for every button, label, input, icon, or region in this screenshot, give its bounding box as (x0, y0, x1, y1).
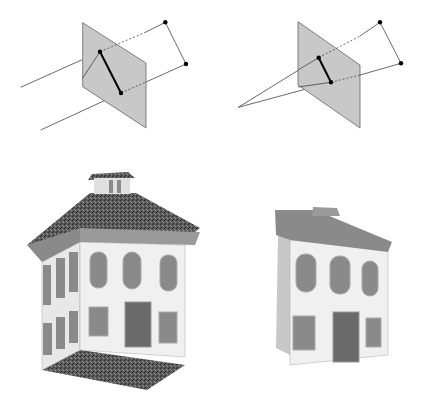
cupola-window (109, 180, 113, 193)
window (159, 312, 177, 343)
side-window (56, 317, 65, 349)
window (90, 252, 107, 288)
parallel-projection-diagram (21, 20, 189, 130)
object-point (378, 20, 382, 24)
ray-line (360, 63, 401, 75)
door (333, 312, 359, 362)
ray-line (146, 22, 165, 32)
perspective-projection-diagram (238, 20, 403, 128)
side-window (56, 258, 65, 298)
object-point (399, 61, 403, 65)
projected-point (98, 50, 102, 54)
house-orthographic (27, 172, 200, 390)
cupola (312, 207, 340, 216)
object-point (163, 20, 167, 24)
window (160, 255, 177, 291)
side-window (43, 323, 52, 355)
projected-point (329, 80, 333, 84)
figure-canvas (0, 0, 422, 398)
cupola-window (117, 180, 121, 193)
window (362, 261, 378, 296)
window (89, 307, 108, 336)
projection-plane (298, 22, 360, 128)
side-window (43, 265, 51, 305)
window (366, 318, 381, 347)
projected-point (317, 56, 321, 60)
window (293, 316, 315, 350)
window (123, 252, 141, 289)
object-segment (380, 22, 401, 63)
projection-plane (83, 23, 146, 128)
ray-line (146, 64, 186, 82)
side-window (69, 311, 78, 343)
ray-line (360, 22, 380, 36)
door (125, 302, 151, 347)
house-side-wall (276, 235, 290, 355)
window (296, 254, 316, 292)
side-window (69, 252, 78, 292)
object-segment (165, 22, 186, 64)
object-point (184, 62, 188, 66)
projected-point (119, 91, 123, 95)
window (330, 256, 350, 294)
house-perspective (275, 207, 392, 365)
